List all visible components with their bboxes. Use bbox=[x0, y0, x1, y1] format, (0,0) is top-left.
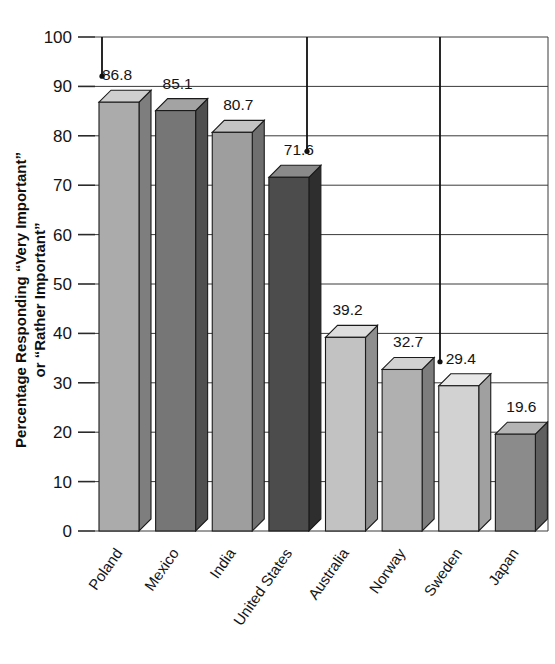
value-label-poland: 86.8 bbox=[102, 66, 132, 83]
callout-dot bbox=[437, 359, 442, 364]
bar-india bbox=[212, 120, 264, 531]
bar-japan bbox=[495, 422, 547, 531]
bar-mexico bbox=[156, 99, 208, 531]
bar-chart-figure: 0102030405060708090100 86.885.180.771.63… bbox=[0, 0, 555, 664]
y-tick-label: 40 bbox=[53, 324, 72, 343]
bar-united-states bbox=[269, 165, 321, 531]
bar-sweden bbox=[439, 374, 491, 531]
bar-side-face bbox=[309, 165, 321, 531]
bar-poland bbox=[99, 90, 151, 531]
bar-front-face bbox=[439, 386, 479, 531]
bar-front-face bbox=[156, 111, 196, 531]
y-axis-title-line-2: or “Rather Important” bbox=[31, 222, 48, 377]
bar-side-face bbox=[535, 422, 547, 531]
y-tick-label: 10 bbox=[53, 473, 72, 492]
bar-front-face bbox=[495, 434, 535, 531]
value-label-sweden: 29.4 bbox=[446, 350, 477, 367]
bar-side-face bbox=[366, 325, 378, 531]
bar-side-face bbox=[422, 357, 434, 531]
bar-front-face bbox=[269, 177, 309, 531]
chart-canvas: 0102030405060708090100 86.885.180.771.63… bbox=[0, 0, 555, 664]
bar-front-face bbox=[212, 132, 252, 531]
y-tick-label: 30 bbox=[53, 374, 72, 393]
bar-norway bbox=[382, 357, 434, 531]
y-tick-label: 20 bbox=[53, 423, 72, 442]
y-tick-label: 80 bbox=[53, 127, 72, 146]
y-axis-title-line-1: Percentage Responding “Very Important” bbox=[12, 152, 29, 448]
value-label-united-states: 71.6 bbox=[284, 141, 314, 158]
y-tick-label: 60 bbox=[53, 226, 72, 245]
value-label-australia: 39.2 bbox=[332, 301, 362, 318]
bar-australia bbox=[326, 325, 378, 531]
y-tick-label: 90 bbox=[53, 77, 72, 96]
value-label-india: 80.7 bbox=[223, 96, 253, 113]
value-label-japan: 19.6 bbox=[506, 398, 536, 415]
value-label-norway: 32.7 bbox=[393, 333, 423, 350]
bar-front-face bbox=[99, 102, 139, 531]
bar-side-face bbox=[139, 90, 151, 531]
bar-side-face bbox=[479, 374, 491, 531]
bar-front-face bbox=[382, 369, 422, 531]
y-tick-label: 50 bbox=[53, 275, 72, 294]
y-tick-label: 0 bbox=[63, 522, 72, 541]
y-tick-label: 70 bbox=[53, 176, 72, 195]
bar-front-face bbox=[326, 337, 366, 531]
bar-side-face bbox=[252, 120, 264, 531]
bar-side-face bbox=[196, 99, 208, 531]
y-tick-label: 100 bbox=[44, 28, 72, 47]
value-label-mexico: 85.1 bbox=[163, 75, 193, 92]
